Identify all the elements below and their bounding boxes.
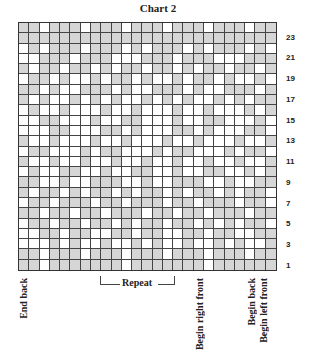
chart-cell — [183, 177, 193, 187]
chart-cell — [255, 54, 265, 64]
chart-cell — [19, 239, 29, 249]
chart-cell — [132, 64, 142, 74]
chart-cell — [19, 54, 29, 64]
chart-cell — [153, 260, 163, 270]
chart-cell — [194, 177, 204, 187]
chart-cell — [225, 219, 235, 229]
chart-cell — [173, 177, 183, 187]
chart-cell — [19, 95, 29, 105]
chart-cell — [29, 157, 39, 167]
chart-cell — [225, 208, 235, 218]
chart-cell — [81, 249, 91, 259]
chart-cell — [60, 64, 70, 74]
chart-cell — [132, 198, 142, 208]
chart-cell — [101, 147, 111, 157]
chart-cell — [204, 147, 214, 157]
chart-cell — [101, 157, 111, 167]
chart-cell — [214, 260, 224, 270]
chart-cell — [132, 44, 142, 54]
chart-cell — [29, 85, 39, 95]
chart-cell — [204, 95, 214, 105]
chart-cell — [183, 33, 193, 43]
chart-cell — [112, 167, 122, 177]
chart-cell — [163, 147, 173, 157]
chart-cell — [132, 208, 142, 218]
chart-cell — [194, 54, 204, 64]
chart-cell — [173, 157, 183, 167]
chart-cell — [214, 23, 224, 33]
chart-cell — [132, 105, 142, 115]
chart-cell — [245, 126, 255, 136]
chart-cell — [245, 23, 255, 33]
chart-cell — [81, 74, 91, 84]
chart-cell — [194, 198, 204, 208]
chart-cell — [163, 167, 173, 177]
chart-cell — [60, 249, 70, 259]
chart-cell — [29, 33, 39, 43]
chart-cell — [214, 188, 224, 198]
chart-cell — [112, 23, 122, 33]
chart-cell — [142, 177, 152, 187]
row-number-3: 3 — [286, 240, 290, 249]
chart-cell — [235, 147, 245, 157]
row-number-15: 15 — [286, 116, 295, 125]
chart-cell — [19, 147, 29, 157]
chart-cell — [132, 177, 142, 187]
chart-cell — [173, 33, 183, 43]
chart-cell — [91, 64, 101, 74]
chart-cell — [101, 54, 111, 64]
chart-cell — [153, 105, 163, 115]
chart-cell — [50, 136, 60, 146]
chart-cell — [50, 44, 60, 54]
chart-cell — [245, 249, 255, 259]
chart-cell — [204, 33, 214, 43]
chart-cell — [101, 95, 111, 105]
chart-cell — [266, 64, 276, 74]
chart-cell — [163, 126, 173, 136]
chart-cell — [266, 167, 276, 177]
chart-cell — [91, 198, 101, 208]
chart-cell — [142, 198, 152, 208]
chart-cell — [60, 136, 70, 146]
chart-cell — [255, 229, 265, 239]
chart-cell — [81, 136, 91, 146]
chart-cell — [204, 198, 214, 208]
chart-cell — [40, 136, 50, 146]
chart-cell — [101, 116, 111, 126]
chart-cell — [225, 229, 235, 239]
chart-cell — [60, 116, 70, 126]
chart-cell — [40, 95, 50, 105]
chart-cell — [163, 177, 173, 187]
chart-cell — [19, 219, 29, 229]
chart-cell — [173, 23, 183, 33]
chart-cell — [163, 239, 173, 249]
chart-cell — [266, 126, 276, 136]
chart-cell — [214, 249, 224, 259]
chart-cell — [70, 188, 80, 198]
chart-cell — [194, 208, 204, 218]
chart-cell — [112, 64, 122, 74]
chart-cell — [40, 85, 50, 95]
chart-cell — [153, 177, 163, 187]
chart-cell — [183, 85, 193, 95]
chart-cell — [183, 116, 193, 126]
chart-cell — [183, 74, 193, 84]
chart-cell — [225, 249, 235, 259]
chart-cell — [245, 64, 255, 74]
chart-cell — [245, 198, 255, 208]
chart-cell — [266, 136, 276, 146]
chart-cell — [214, 95, 224, 105]
chart-cell — [142, 126, 152, 136]
chart-cell — [245, 239, 255, 249]
chart-cell — [40, 116, 50, 126]
chart-cell — [29, 147, 39, 157]
chart-cell — [173, 85, 183, 95]
chart-cell — [50, 95, 60, 105]
chart-cell — [266, 147, 276, 157]
chart-cell — [132, 126, 142, 136]
chart-cell — [266, 188, 276, 198]
chart-cell — [153, 33, 163, 43]
chart-cell — [70, 85, 80, 95]
chart-cell — [19, 136, 29, 146]
chart-cell — [132, 136, 142, 146]
